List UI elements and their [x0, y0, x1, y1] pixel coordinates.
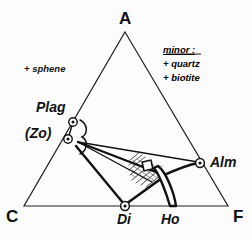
- minor-phases-note: minor : + quartz + biotite: [163, 44, 200, 83]
- phase-label-ho: Ho: [161, 212, 180, 226]
- tie-line-ho-alm: [162, 163, 198, 176]
- plag-zo-brace: [80, 120, 86, 154]
- phase-label-alm: Alm: [210, 155, 236, 169]
- assemblage-square-marker: [142, 160, 153, 171]
- phase-label-plag: Plag: [36, 100, 66, 114]
- minor-note-biotite: + biotite: [163, 72, 200, 83]
- apex-label-a: A: [119, 10, 131, 27]
- apex-label-f: F: [233, 208, 243, 225]
- minor-note-heading: minor :: [163, 44, 200, 55]
- tie-line-zo-di: [76, 146, 124, 204]
- acf-ternary-diagram: A C F + sphene minor : + quartz + biotit…: [0, 0, 252, 241]
- sphene-note: + sphene: [24, 64, 65, 74]
- phase-label-di: Di: [117, 212, 131, 226]
- minor-note-quartz: + quartz: [163, 58, 200, 69]
- phase-label-zo: (Zo): [25, 126, 51, 140]
- di-marker: [121, 202, 130, 211]
- alm-marker: [196, 159, 205, 168]
- apex-label-c: C: [6, 208, 18, 225]
- zo-marker: [64, 135, 72, 143]
- diagram-canvas: [0, 0, 252, 241]
- plag-marker: [69, 118, 77, 126]
- tie-line-di-ho: [126, 178, 162, 204]
